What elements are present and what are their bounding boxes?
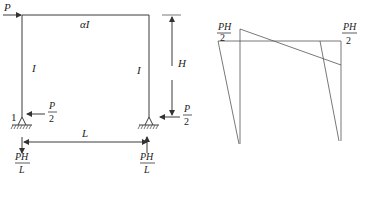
svg-text:2: 2	[220, 32, 225, 43]
left-horizontal-reaction-label: P 2	[48, 100, 57, 124]
left-vertical-reaction-label: PH L	[14, 151, 30, 175]
svg-text:PH: PH	[14, 151, 29, 162]
height-label: H	[177, 57, 187, 69]
left-column-label: I	[31, 62, 37, 74]
moment-diagram: PH 2 PH 2	[217, 21, 357, 144]
span-label: L	[81, 127, 88, 139]
svg-text:P: P	[48, 100, 55, 111]
node-label: 1	[11, 111, 17, 123]
svg-text:L: L	[143, 164, 150, 175]
svg-text:P: P	[183, 103, 190, 114]
structure-figure: P αI I I 1 P 2 H	[0, 0, 365, 198]
load-label: P	[3, 1, 11, 13]
svg-text:2: 2	[346, 35, 351, 46]
right-vertical-reaction-label: PH L	[139, 151, 155, 175]
svg-text:PH: PH	[217, 21, 232, 32]
svg-text:L: L	[18, 164, 25, 175]
portal-frame: P αI I I 1 P 2 H	[3, 1, 192, 175]
right-horizontal-reaction-label: P 2	[183, 103, 192, 127]
beam-label: αI	[80, 18, 91, 30]
svg-text:2: 2	[49, 113, 54, 124]
beam-moment-line	[240, 29, 341, 65]
svg-text:2: 2	[184, 116, 189, 127]
right-column-label: I	[136, 64, 142, 76]
left-column-moment-line	[218, 41, 239, 144]
svg-text:PH: PH	[139, 151, 154, 162]
left-moment-value: PH 2	[217, 21, 232, 43]
right-column-moment-line	[320, 41, 339, 141]
right-pin-support	[138, 117, 159, 129]
svg-text:PH: PH	[342, 21, 357, 32]
right-moment-value: PH 2	[342, 21, 357, 46]
